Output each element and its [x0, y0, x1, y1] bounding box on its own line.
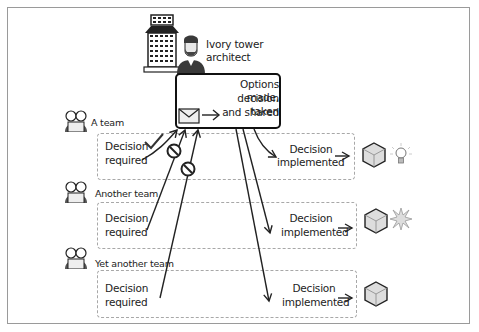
- blocked-icon: [180, 161, 196, 177]
- explosion-icon: [390, 208, 412, 230]
- cube-icon: [364, 281, 388, 307]
- cube-icon: [364, 208, 388, 234]
- blocked-icon: [166, 143, 182, 159]
- lightbulb-icon: [390, 143, 412, 167]
- cube-icon: [362, 142, 386, 168]
- checkmark-icon: [143, 132, 165, 150]
